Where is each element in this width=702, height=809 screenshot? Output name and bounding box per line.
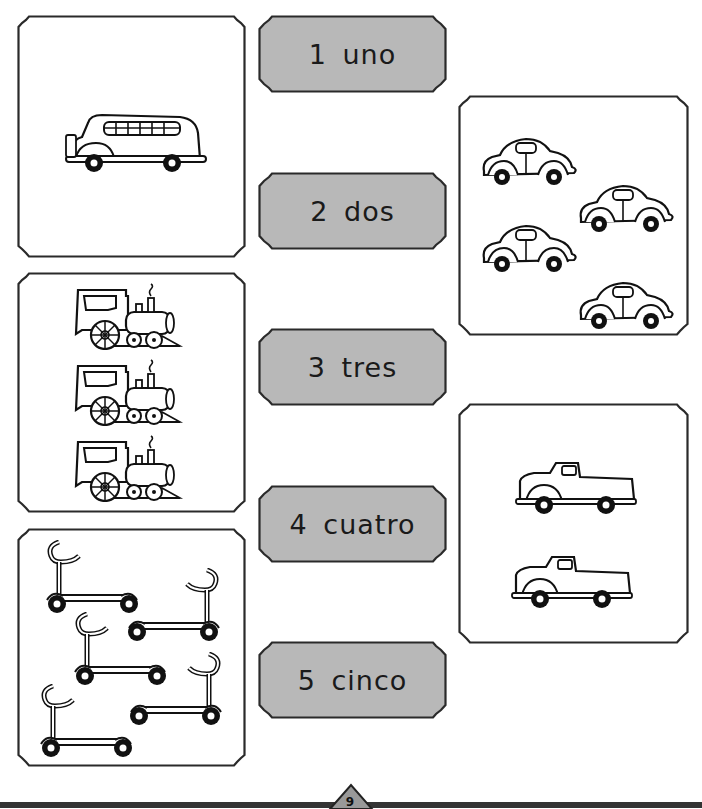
picture-box-trucks <box>458 403 689 644</box>
train-icon <box>72 434 184 502</box>
picture-box-scooters <box>17 528 246 767</box>
number-label-1[interactable]: 1 uno <box>258 15 447 93</box>
number-label-3[interactable]: 3 tres <box>258 328 447 406</box>
label-text: 3 tres <box>258 328 447 406</box>
pickup-truck-icon <box>514 459 640 517</box>
page-number: 9 <box>340 795 360 809</box>
scooter-icon <box>127 652 223 726</box>
car-icon <box>575 182 677 234</box>
label-text: 5 cinco <box>258 641 447 719</box>
car-icon <box>478 135 580 187</box>
pickup-truck-icon <box>510 553 636 611</box>
label-text: 2 dos <box>258 172 447 250</box>
picture-box-trains <box>17 272 246 513</box>
scooter-icon <box>39 684 135 758</box>
label-text: 1 uno <box>258 15 447 93</box>
car-icon <box>575 279 677 331</box>
number-label-2[interactable]: 2 dos <box>258 172 447 250</box>
bus-icon <box>62 109 212 175</box>
picture-box-cars <box>458 95 689 336</box>
number-label-4[interactable]: 4 cuatro <box>258 485 447 563</box>
label-text: 4 cuatro <box>258 485 447 563</box>
picture-box-bus <box>17 15 246 258</box>
train-icon <box>72 358 184 426</box>
car-icon <box>478 222 580 274</box>
train-icon <box>72 282 184 350</box>
number-label-5[interactable]: 5 cinco <box>258 641 447 719</box>
